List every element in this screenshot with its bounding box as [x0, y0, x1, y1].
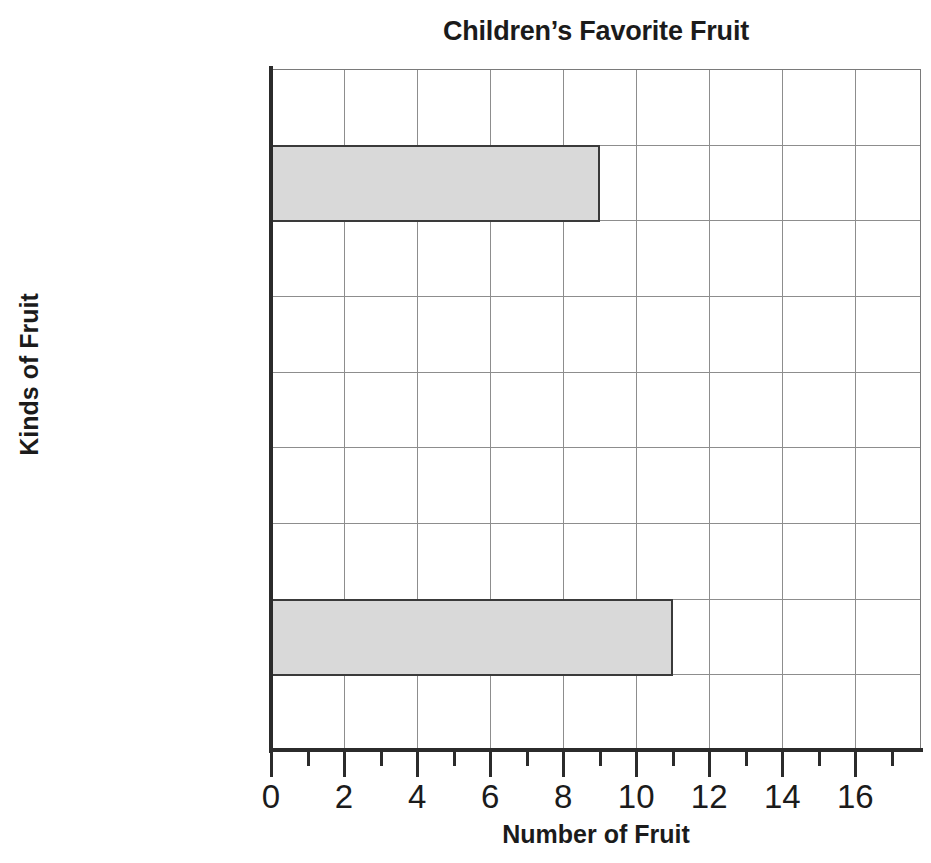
- x-tick-major: [416, 752, 419, 777]
- vertical-gridline: [709, 69, 710, 750]
- x-tick-label: 8: [533, 780, 593, 813]
- x-tick-label: 4: [387, 780, 447, 813]
- x-tick-major: [708, 752, 711, 777]
- x-tick-major: [781, 752, 784, 777]
- x-tick-label: 14: [752, 780, 812, 813]
- x-tick-minor: [307, 752, 310, 766]
- x-tick-major: [270, 752, 273, 777]
- x-tick-label: 12: [679, 780, 739, 813]
- x-axis-title: Number of Fruit: [271, 820, 921, 849]
- x-tick-minor: [599, 752, 602, 766]
- vertical-gridline: [782, 69, 783, 750]
- vertical-gridline: [855, 69, 856, 750]
- x-tick-major: [635, 752, 638, 777]
- bar-blueberry: [271, 145, 600, 222]
- x-tick-label: 10: [606, 780, 666, 813]
- horizontal-gridline: [271, 296, 921, 297]
- x-tick-minor: [672, 752, 675, 766]
- x-tick-label: 0: [241, 780, 301, 813]
- plot-top-border: [271, 69, 921, 70]
- horizontal-gridline: [271, 523, 921, 524]
- x-tick-label: 16: [825, 780, 885, 813]
- y-axis-line: [269, 66, 273, 753]
- bar-watermelon: [271, 599, 673, 676]
- x-axis-line: [269, 748, 923, 752]
- x-tick-minor: [380, 752, 383, 766]
- x-tick-minor: [453, 752, 456, 766]
- horizontal-gridline: [271, 372, 921, 373]
- x-tick-major: [489, 752, 492, 777]
- x-tick-minor: [818, 752, 821, 766]
- x-tick-major: [854, 752, 857, 777]
- plot-right-border: [920, 69, 921, 750]
- chart-title: Children’s Favorite Fruit: [271, 16, 921, 47]
- x-tick-major: [562, 752, 565, 777]
- x-tick-minor: [526, 752, 529, 766]
- x-tick-minor: [745, 752, 748, 766]
- x-tick-label: 6: [460, 780, 520, 813]
- plot-area: [271, 69, 921, 750]
- x-tick-major: [343, 752, 346, 777]
- x-tick-minor: [891, 752, 894, 766]
- horizontal-gridline: [271, 447, 921, 448]
- y-axis-title: Kinds of Fruit: [15, 265, 44, 485]
- x-tick-label: 2: [314, 780, 374, 813]
